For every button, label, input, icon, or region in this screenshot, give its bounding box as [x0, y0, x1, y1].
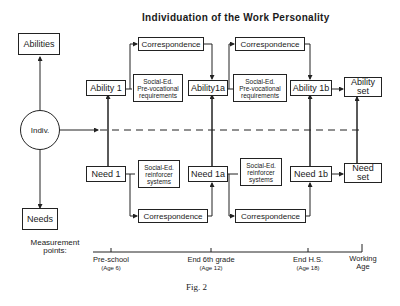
- node-ability-1: Ability 1: [86, 80, 126, 96]
- node-need-1: Need 1: [86, 166, 126, 182]
- node-requirements-2: Social-Ed. Pre-vocational requirements: [233, 74, 287, 102]
- node-abilities: Abilities: [18, 33, 60, 55]
- node-needs: Needs: [22, 208, 58, 230]
- node-ability-1a: Ability1a: [188, 80, 228, 96]
- timeline-point-working-age: Working Age: [340, 255, 386, 271]
- node-ability-1b: Ability 1b: [290, 80, 332, 96]
- node-requirements-1: Social-Ed. Pre-vocational requirements: [133, 74, 183, 102]
- node-need-1a: Need 1a: [188, 166, 228, 182]
- diagram-title: Individuation of the Work Personality: [142, 12, 330, 23]
- node-reinforcer-2: Social-Ed. reinforcer systems: [240, 158, 282, 186]
- node-need-1b: Need 1b: [290, 166, 332, 182]
- node-ability-set: Ability set: [344, 77, 382, 97]
- node-correspondence-bottom-2: Correspondence: [235, 209, 306, 223]
- timeline-point-preschool: Pre-school (Age 6): [81, 256, 141, 272]
- node-need-set: Need set: [344, 163, 382, 183]
- node-correspondence-top-2: Correspondence: [235, 37, 305, 51]
- node-correspondence-bottom-1: Correspondence: [138, 209, 208, 223]
- node-reinforcer-1: Social-Ed. reinforcer systems: [138, 160, 180, 188]
- timeline-point-end-hs: End H.S. (Age 18): [283, 256, 333, 272]
- timeline-point-6th-grade: End 6th grade (Age 12): [176, 256, 246, 272]
- node-correspondence-top-1: Correspondence: [138, 37, 204, 51]
- figure-caption: Fig. 2: [186, 282, 207, 292]
- node-indiv: Indiv.: [20, 110, 60, 150]
- measurement-label: Measurement points:: [20, 239, 90, 255]
